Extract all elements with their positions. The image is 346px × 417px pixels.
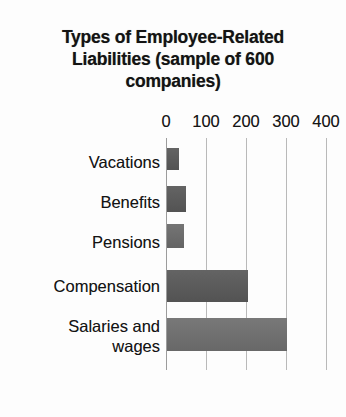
chart-title: Types of Employee-Related Liabilities (s… bbox=[8, 26, 338, 92]
chart-figure: Types of Employee-Related Liabilities (s… bbox=[0, 0, 346, 417]
bar-salaries-and-wages bbox=[167, 318, 287, 351]
x-tick-label-400: 400 bbox=[312, 110, 340, 132]
category-label-salaries-and-wages: Salaries and wages bbox=[0, 316, 160, 356]
bar-compensation bbox=[167, 270, 248, 302]
y-axis-category-labels: Vacations Benefits Pensions Compensation… bbox=[0, 138, 160, 370]
bar-benefits bbox=[167, 186, 186, 212]
category-label-benefits: Benefits bbox=[0, 192, 160, 212]
category-label-compensation: Compensation bbox=[0, 276, 160, 296]
category-label-pensions: Pensions bbox=[0, 232, 160, 252]
bar-pensions bbox=[167, 224, 184, 248]
x-axis-tick-labels: 0 100 200 300 400 bbox=[0, 110, 346, 132]
x-tick-label-200: 200 bbox=[232, 110, 260, 132]
plot-area bbox=[166, 138, 326, 370]
gridline-400 bbox=[326, 138, 327, 370]
x-tick-label-0: 0 bbox=[161, 110, 170, 132]
x-tick-label-300: 300 bbox=[272, 110, 300, 132]
bar-vacations bbox=[167, 148, 179, 170]
category-label-vacations: Vacations bbox=[0, 152, 160, 172]
x-tick-label-100: 100 bbox=[192, 110, 220, 132]
